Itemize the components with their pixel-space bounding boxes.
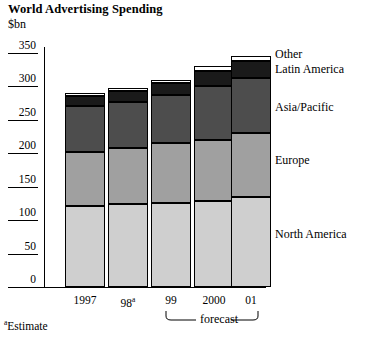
bar-segment-other[interactable] (108, 88, 148, 91)
footnote-text: Estimate (7, 320, 47, 332)
y-axis-tick-label: 200 (6, 140, 36, 151)
y-axis-tick-label: 250 (6, 107, 36, 118)
y-axis-tick-mark (8, 254, 38, 255)
bar-segment-asia-pacific[interactable] (108, 102, 148, 148)
legend-label-latin-america: Latin America (275, 63, 344, 76)
y-axis-tick-label: 350 (6, 40, 36, 51)
forecast-label: forecast (200, 312, 238, 327)
y-axis-tick-mark (8, 187, 38, 188)
bar-2000[interactable] (194, 66, 234, 287)
y-axis-tick-label: 100 (6, 207, 36, 218)
bar-segment-europe[interactable] (231, 133, 271, 197)
bar-segment-north-america[interactable] (65, 206, 105, 287)
bar-segment-asia-pacific[interactable] (231, 78, 271, 133)
bar-98[interactable] (108, 88, 148, 287)
bar-segment-other[interactable] (65, 93, 105, 96)
y-axis-tick-mark (8, 220, 38, 221)
y-axis-tick-label: 300 (6, 73, 36, 84)
bar-segment-europe[interactable] (194, 140, 234, 201)
y-axis-tick-mark (8, 86, 38, 87)
bar-segment-latin-america[interactable] (151, 83, 191, 95)
bar-segment-other[interactable] (194, 66, 234, 71)
plot-area: 050100150200250300350199798a99200001fore… (0, 0, 368, 340)
bar-segment-asia-pacific[interactable] (194, 86, 234, 139)
bar-segment-latin-america[interactable] (108, 91, 148, 102)
legend-label-other: Other (275, 48, 302, 61)
bar-99[interactable] (151, 80, 191, 287)
legend-label-europe: Europe (275, 154, 310, 167)
bar-segment-latin-america[interactable] (231, 61, 271, 78)
y-axis-tick-label: 0 (6, 274, 36, 285)
bar-segment-north-america[interactable] (194, 201, 234, 287)
y-axis-tick-mark (8, 120, 38, 121)
y-axis-tick-label: 150 (6, 174, 36, 185)
bar-segment-north-america[interactable] (108, 204, 148, 287)
legend-label-north-america: North America (275, 228, 347, 241)
footnote: aEstimate (4, 318, 48, 332)
bar-segment-europe[interactable] (151, 143, 191, 203)
bar-segment-asia-pacific[interactable] (65, 106, 105, 151)
x-axis-tick-label: 01 (219, 294, 283, 306)
bar-01[interactable] (231, 56, 271, 287)
bar-segment-europe[interactable] (65, 152, 105, 206)
bar-segment-asia-pacific[interactable] (151, 95, 191, 143)
y-axis-tick-mark (8, 53, 38, 54)
bar-segment-other[interactable] (151, 80, 191, 83)
bar-segment-other[interactable] (231, 56, 271, 61)
x-axis-line (34, 287, 266, 288)
legend-label-asia-pacific: Asia/Pacific (275, 101, 334, 114)
y-axis-tick-label: 50 (6, 241, 36, 252)
bar-segment-north-america[interactable] (231, 197, 271, 287)
chart-figure: World Advertising Spending $bn 050100150… (0, 0, 368, 340)
y-axis-tick-mark (8, 153, 38, 154)
bar-segment-europe[interactable] (108, 148, 148, 204)
bar-1997[interactable] (65, 93, 105, 287)
bar-segment-latin-america[interactable] (194, 71, 234, 86)
bar-segment-north-america[interactable] (151, 203, 191, 287)
y-axis-line (44, 47, 45, 288)
bar-segment-latin-america[interactable] (65, 96, 105, 107)
y-axis-tick-mark (8, 287, 38, 288)
